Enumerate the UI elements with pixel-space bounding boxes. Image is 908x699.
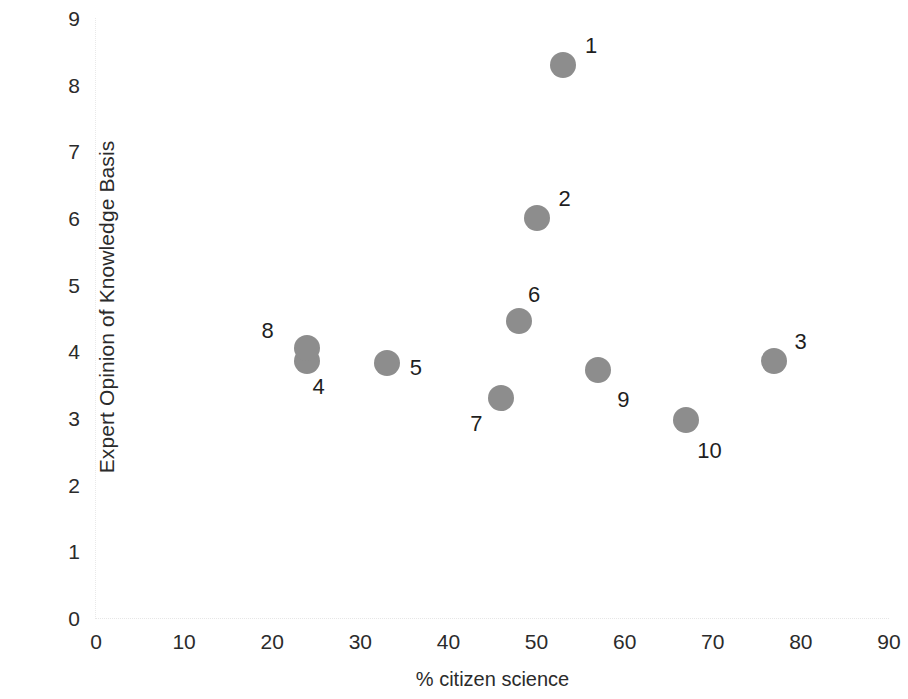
data-point-marker [524, 205, 550, 231]
data-point-marker [550, 52, 576, 78]
x-axis-tick-label: 60 [595, 631, 655, 652]
x-axis-tick-label: 30 [330, 631, 390, 652]
plot-area [96, 18, 889, 618]
x-axis-tick-label: 40 [418, 631, 478, 652]
data-point-label: 4 [312, 376, 324, 398]
y-axis-tick-label: 5 [40, 275, 80, 296]
y-axis-tick-labels: 0123456789 [36, 0, 80, 699]
y-axis-tick-label: 6 [40, 208, 80, 229]
y-axis-tick-label: 2 [40, 475, 80, 496]
x-axis-tick-label: 80 [771, 631, 831, 652]
x-axis-tick-label: 20 [242, 631, 302, 652]
y-axis-tick-label: 9 [40, 8, 80, 29]
y-axis-tick-label: 7 [40, 141, 80, 162]
y-axis-tick-label: 8 [40, 75, 80, 96]
x-axis-title: % citizen science [96, 668, 889, 691]
y-axis-tick-label: 4 [40, 341, 80, 362]
data-point-label: 10 [697, 440, 721, 462]
x-axis-tick-label: 0 [66, 631, 126, 652]
x-axis-tick-label: 10 [154, 631, 214, 652]
data-point-label: 8 [261, 320, 273, 342]
data-point-label: 7 [470, 413, 482, 435]
x-axis-tick-label: 90 [859, 631, 908, 652]
data-point-label: 2 [559, 188, 571, 210]
data-point-label: 1 [585, 35, 597, 57]
data-point-label: 6 [528, 284, 540, 306]
x-axis-tick-label: 70 [683, 631, 743, 652]
y-axis-tick-label: 0 [40, 608, 80, 629]
data-point-label: 9 [617, 389, 629, 411]
x-axis-line [95, 618, 889, 619]
y-axis-tick-label: 3 [40, 408, 80, 429]
data-point-label: 5 [410, 357, 422, 379]
x-axis-tick-label: 50 [507, 631, 567, 652]
data-point-label: 3 [794, 331, 806, 353]
scatter-chart: Expert Opinion of Knowledge Basis 012345… [0, 0, 908, 699]
data-point-marker [374, 350, 400, 376]
y-axis-tick-label: 1 [40, 541, 80, 562]
